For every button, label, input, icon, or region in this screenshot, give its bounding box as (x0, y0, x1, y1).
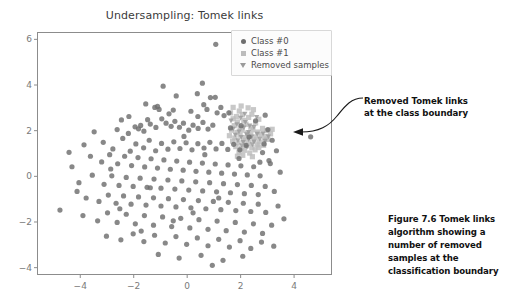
data-point (201, 145, 206, 150)
data-point (220, 258, 225, 263)
data-point (143, 202, 148, 207)
data-point (253, 118, 258, 123)
data-point (213, 42, 218, 47)
data-point (248, 246, 253, 251)
data-point (218, 207, 223, 212)
data-point (173, 234, 178, 239)
figure-page: Undersampling: Tomek links −4−2024−4−202… (0, 0, 521, 306)
data-point (115, 127, 120, 132)
data-point (256, 145, 261, 150)
data-point (166, 196, 171, 201)
data-point (251, 107, 256, 112)
data-point (133, 141, 138, 146)
data-point (141, 129, 146, 134)
data-point (221, 181, 226, 186)
data-point (124, 175, 129, 180)
data-point (165, 147, 170, 152)
y-axis-tick-label: −4 (12, 263, 32, 273)
data-point (122, 154, 127, 159)
data-point (235, 182, 240, 187)
data-point (81, 142, 86, 147)
data-point (107, 152, 112, 157)
data-point (246, 105, 251, 110)
data-point (160, 214, 165, 219)
data-point (172, 187, 177, 192)
data-point (136, 126, 141, 131)
data-point (196, 126, 201, 131)
data-point (177, 146, 182, 151)
data-point (226, 110, 231, 115)
annotation-line-2: at the class boundary (364, 107, 514, 119)
data-point (263, 113, 268, 118)
data-point (205, 227, 210, 232)
data-point (228, 190, 233, 195)
data-point (200, 160, 205, 165)
data-point (142, 164, 147, 169)
data-point (218, 105, 223, 110)
data-point (233, 208, 238, 213)
data-point (161, 84, 166, 89)
data-point (263, 184, 268, 189)
legend-item-class-0[interactable]: Class #0 (235, 35, 327, 47)
data-point (133, 221, 138, 226)
data-point (174, 93, 179, 98)
data-point (153, 148, 158, 153)
data-point (195, 91, 200, 96)
data-point (193, 169, 198, 174)
data-point (131, 231, 136, 236)
data-point (104, 234, 109, 239)
legend-item-label: Removed samples (251, 60, 329, 70)
data-point (113, 201, 118, 206)
data-point (225, 162, 230, 167)
data-point (120, 136, 125, 141)
data-point (196, 198, 201, 203)
data-point (205, 126, 210, 131)
data-point (136, 194, 141, 199)
data-point (251, 164, 256, 169)
data-point (174, 158, 179, 163)
data-point (274, 148, 279, 153)
annotation-line-1: Removed Tomek links (364, 95, 514, 107)
data-point (115, 220, 120, 225)
data-point (145, 117, 150, 122)
data-point (138, 176, 143, 181)
data-point (196, 217, 201, 222)
data-point (278, 170, 283, 175)
data-point (237, 238, 242, 243)
data-point (239, 123, 244, 128)
data-point (109, 173, 114, 178)
data-point (214, 189, 219, 194)
x-axis-tick-label: 4 (291, 281, 297, 291)
data-point (281, 216, 286, 221)
data-point (90, 173, 95, 178)
data-point (221, 113, 226, 118)
data-point (166, 111, 171, 116)
data-point (158, 186, 163, 191)
data-point (195, 235, 200, 240)
data-point (119, 117, 124, 122)
legend-item-class-1[interactable]: Class #1 (235, 47, 327, 59)
data-point (269, 223, 274, 228)
data-point (188, 205, 193, 210)
data-point (121, 193, 126, 198)
y-axis-tick-label: −2 (12, 217, 32, 227)
data-point (201, 102, 206, 107)
data-point (95, 218, 100, 223)
data-point (268, 161, 273, 166)
data-point (159, 141, 164, 146)
data-point (225, 147, 230, 152)
data-point (153, 125, 158, 130)
data-point (181, 168, 186, 173)
data-point (271, 244, 276, 249)
data-point (265, 127, 270, 132)
data-point (169, 124, 174, 129)
data-point (213, 146, 218, 151)
figure-caption: Figure 7.6 Tomek links algorithm showing… (388, 213, 512, 278)
data-point (272, 189, 277, 194)
data-point (92, 129, 97, 134)
y-axis-tick-label: 6 (12, 34, 32, 44)
data-point (231, 105, 236, 110)
data-point (117, 206, 122, 211)
annotation-arrow (285, 92, 370, 147)
legend-item-removed-samples[interactable]: Removed samples (235, 59, 327, 71)
